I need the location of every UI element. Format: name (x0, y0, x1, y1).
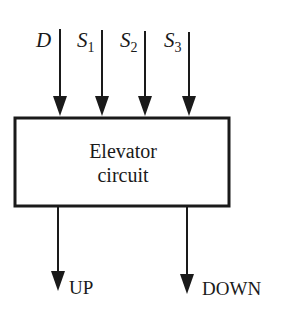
input-label-s1: S1 (77, 28, 95, 55)
input-arrow-s1 (95, 30, 109, 116)
input-arrow-s2 (138, 31, 152, 116)
block-label-line2: circuit (97, 164, 149, 186)
elevator-circuit-block (15, 118, 229, 206)
input-label-s2: S2 (120, 28, 138, 55)
input-label-d: D (35, 28, 51, 52)
output-arrow-down (180, 206, 194, 294)
output-arrow-up (51, 206, 65, 291)
elevator-block-diagram: D S1 S2 S3 Elevator circuit UP DOWN (0, 0, 290, 323)
block-label-line1: Elevator (89, 140, 157, 162)
input-arrow-d (53, 29, 67, 116)
input-arrow-s3 (182, 32, 196, 116)
output-label-down: DOWN (202, 278, 261, 299)
output-label-up: UP (69, 277, 93, 298)
input-label-s3: S3 (164, 28, 182, 55)
